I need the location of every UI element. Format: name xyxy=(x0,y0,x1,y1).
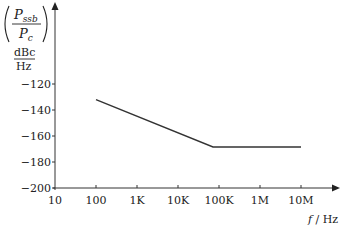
left-paren xyxy=(5,6,9,42)
y-unit-numerator: dBc xyxy=(14,46,35,59)
x-tick-label: 10M xyxy=(288,194,313,207)
x-axis-arrow-icon xyxy=(332,185,340,192)
right-paren xyxy=(43,6,47,42)
x-tick-label: 10K xyxy=(167,194,190,207)
y-label-denominator: Pc xyxy=(18,26,33,43)
x-tick-label: 1K xyxy=(129,194,145,207)
phase-noise-line xyxy=(96,100,301,147)
y-tick-label: −160 xyxy=(21,130,51,143)
y-tick-label: −200 xyxy=(21,182,51,195)
y-tick-label: −140 xyxy=(21,104,51,117)
y-tick-label: −180 xyxy=(21,156,51,169)
chart: Pssb Pc dBc Hz −120 −140 −160 −180 −200 … xyxy=(0,0,354,236)
y-tick-label: −120 xyxy=(21,78,51,91)
y-unit-denominator: Hz xyxy=(16,60,32,73)
x-tick-label: 100 xyxy=(86,194,107,207)
x-tick-label: 100K xyxy=(204,194,234,207)
y-axis-arrow-icon xyxy=(52,2,59,10)
y-axis-label: Pssb Pc dBc Hz xyxy=(5,6,47,73)
x-tick-label: 1M xyxy=(251,194,269,207)
x-tick-label: 10 xyxy=(48,194,62,207)
y-label-numerator: Pssb xyxy=(13,7,38,24)
y-ticks: −120 −140 −160 −180 −200 xyxy=(21,78,55,195)
x-axis-label: f / Hz xyxy=(307,213,338,226)
